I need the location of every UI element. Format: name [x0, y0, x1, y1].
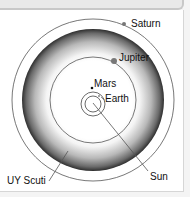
jupiter-label: Jupiter: [119, 52, 150, 63]
uy-scuti-label: UY Scuti: [7, 175, 46, 186]
mars-label: Mars: [94, 78, 116, 89]
saturn-label: Saturn: [131, 18, 160, 29]
earth-label: Earth: [105, 93, 129, 104]
mars-dot: [91, 87, 94, 90]
earth-dot: [98, 95, 100, 97]
uy-scuti-disk: [22, 29, 164, 171]
sun-label: Sun: [150, 171, 168, 182]
jupiter-dot: [111, 58, 117, 64]
solar-comparison-diagram: Saturn Jupiter Mars Earth UY Scuti Sun: [0, 0, 190, 197]
saturn-dot: [122, 22, 126, 26]
